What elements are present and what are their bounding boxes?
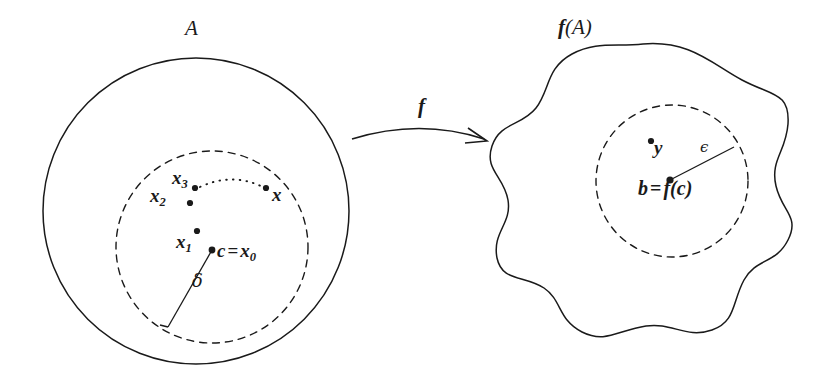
label-point-c-sub: 0 — [250, 250, 256, 264]
label-map-f: f — [418, 96, 425, 117]
map-arrow-head — [465, 128, 487, 143]
label-set-fa-open: ( — [565, 15, 572, 39]
delta-radius-line — [168, 250, 212, 327]
label-set-fa: f(A) — [558, 17, 592, 38]
label-set-fa-arg: A — [572, 15, 585, 39]
label-point-b-open: ( — [670, 177, 677, 199]
label-point-x1-base: x — [176, 231, 186, 252]
label-point-x3-base: x — [172, 167, 182, 188]
label-point-x3: x3 — [172, 168, 188, 190]
label-epsilon: ϵ — [700, 140, 708, 155]
domain-set-boundary — [43, 58, 349, 364]
point-dot-x1 — [194, 228, 200, 234]
label-point-c: c=x0 — [217, 241, 256, 263]
point-dot-x — [263, 185, 269, 191]
label-point-x3-sub: 3 — [182, 177, 188, 191]
label-point-x1: x1 — [176, 232, 192, 254]
label-point-b-equals: = — [648, 177, 663, 199]
label-delta: δ — [192, 272, 203, 290]
label-point-x2-base: x — [150, 185, 160, 206]
label-point-x2: x2 — [150, 186, 166, 208]
point-dot-x3 — [192, 185, 198, 191]
label-point-y: y — [654, 138, 662, 157]
label-point-b-close: ) — [686, 177, 693, 199]
sequence-dotted-arc — [200, 180, 263, 188]
point-dot-x2 — [187, 200, 193, 206]
label-point-b-base: b — [638, 177, 648, 199]
label-set-fa-f: f — [558, 15, 565, 39]
delta-radius-tick — [160, 325, 168, 327]
point-dot-c — [209, 247, 216, 254]
label-set-a: A — [185, 18, 198, 39]
diagram-canvas — [0, 0, 820, 380]
label-point-x1-sub: 1 — [186, 241, 192, 255]
label-set-fa-close: ) — [585, 15, 592, 39]
label-point-b: b=f(c) — [638, 178, 692, 198]
label-point-x: x — [272, 185, 282, 204]
label-point-b-arg: c — [677, 177, 686, 199]
label-point-c-equals: = — [225, 240, 240, 261]
continuity-diagram: A f(A) f x3 x2 x x1 c=x0 δ y ϵ b=f(c) — [0, 0, 820, 380]
label-point-c-x: x — [240, 240, 250, 261]
map-arrow-curve — [352, 129, 484, 140]
label-point-x2-sub: 2 — [160, 195, 166, 209]
